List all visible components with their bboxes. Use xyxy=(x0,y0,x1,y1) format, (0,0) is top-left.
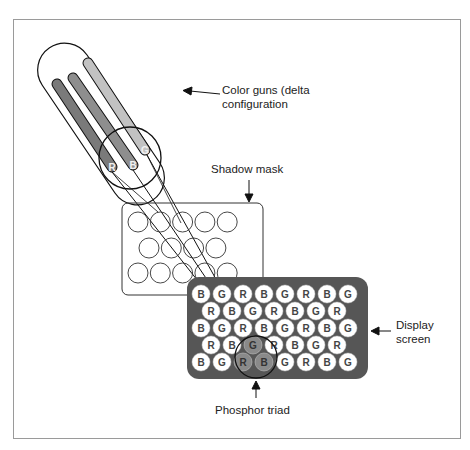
phosphor-dot-g: G xyxy=(276,353,294,371)
label-phosphor-triad: Phosphor triad xyxy=(215,403,290,417)
svg-text:R: R xyxy=(207,340,215,351)
phosphor-dot-r: R xyxy=(202,302,220,320)
gun-label-g: G xyxy=(141,145,149,156)
svg-text:G: G xyxy=(218,289,226,300)
svg-text:R: R xyxy=(239,323,247,334)
mask-hole xyxy=(173,212,193,232)
phosphor-dot-b: B xyxy=(192,319,210,337)
svg-text:G: G xyxy=(344,323,352,334)
phosphor-dot-g: G xyxy=(244,302,262,320)
svg-text:G: G xyxy=(281,289,289,300)
phosphor-dot-r: R xyxy=(328,302,346,320)
svg-text:G: G xyxy=(344,289,352,300)
svg-text:R: R xyxy=(302,323,310,334)
svg-text:R: R xyxy=(302,289,310,300)
svg-text:B: B xyxy=(197,357,204,368)
phosphor-dot-g: G xyxy=(276,319,294,337)
label-display-line2: screen xyxy=(396,332,434,346)
mask-hole xyxy=(217,212,237,232)
svg-text:B: B xyxy=(260,289,267,300)
svg-text:B: B xyxy=(197,323,204,334)
svg-text:B: B xyxy=(228,340,235,351)
label-display-screen: Display screen xyxy=(396,318,434,346)
phosphor-dot-g: G xyxy=(276,285,294,303)
phosphor-dot-g: G xyxy=(339,319,357,337)
svg-text:G: G xyxy=(312,340,320,351)
display-screen: BGRBGRBGRBGRBGRBGRBGRBGRBGRBGRBGRBGRBG xyxy=(187,277,368,379)
phosphor-dot-g: G xyxy=(339,285,357,303)
phosphor-dot-r: R xyxy=(328,336,346,354)
svg-text:B: B xyxy=(323,357,330,368)
phosphor-dot-g: G xyxy=(307,302,325,320)
svg-text:R: R xyxy=(270,340,278,351)
gun-label-b: B xyxy=(129,160,136,171)
arrow-color-guns xyxy=(190,91,220,94)
phosphor-dot-b: B xyxy=(192,353,210,371)
svg-text:G: G xyxy=(218,323,226,334)
phosphor-dot-r: R xyxy=(297,319,315,337)
svg-text:B: B xyxy=(197,289,204,300)
phosphor-dot-r: R xyxy=(234,353,252,371)
svg-text:B: B xyxy=(291,340,298,351)
phosphor-dot-g: G xyxy=(339,353,357,371)
svg-text:G: G xyxy=(312,306,320,317)
phosphor-dot-r: R xyxy=(265,302,283,320)
gun-label-r: R xyxy=(108,162,116,173)
svg-text:G: G xyxy=(249,340,257,351)
svg-text:B: B xyxy=(323,323,330,334)
svg-text:G: G xyxy=(344,357,352,368)
phosphor-dot-b: B xyxy=(255,353,273,371)
svg-text:B: B xyxy=(260,323,267,334)
phosphor-dot-b: B xyxy=(318,353,336,371)
svg-text:R: R xyxy=(302,357,310,368)
phosphor-dot-r: R xyxy=(297,285,315,303)
label-color-guns-line1: Color guns (delta xyxy=(222,83,310,97)
phosphor-dot-r: R xyxy=(297,353,315,371)
phosphor-dot-g: G xyxy=(213,319,231,337)
phosphor-dot-b: B xyxy=(318,285,336,303)
svg-text:R: R xyxy=(239,289,247,300)
svg-text:R: R xyxy=(207,306,215,317)
phosphor-dot-r: R xyxy=(234,319,252,337)
svg-text:G: G xyxy=(218,357,226,368)
mask-hole xyxy=(173,263,193,283)
mask-hole xyxy=(195,212,215,232)
phosphor-dot-b: B xyxy=(223,302,241,320)
svg-text:B: B xyxy=(260,357,267,368)
phosphor-dot-r: R xyxy=(202,336,220,354)
phosphor-dot-b: B xyxy=(255,285,273,303)
label-shadow-mask: Shadow mask xyxy=(211,162,283,176)
svg-text:B: B xyxy=(291,306,298,317)
mask-hole xyxy=(128,263,148,283)
phosphor-dot-b: B xyxy=(286,336,304,354)
phosphor-dot-b: B xyxy=(255,319,273,337)
svg-text:R: R xyxy=(270,306,278,317)
mask-hole xyxy=(139,238,159,258)
svg-text:G: G xyxy=(281,357,289,368)
phosphor-dot-b: B xyxy=(192,285,210,303)
svg-text:B: B xyxy=(323,289,330,300)
svg-text:G: G xyxy=(249,306,257,317)
svg-text:R: R xyxy=(239,357,247,368)
mask-hole xyxy=(150,212,170,232)
svg-text:G: G xyxy=(281,323,289,334)
mask-hole xyxy=(150,263,170,283)
label-display-line1: Display xyxy=(396,318,434,332)
phosphor-dot-b: B xyxy=(286,302,304,320)
phosphor-dot-g: G xyxy=(213,353,231,371)
color-gun-assembly: RBG xyxy=(27,33,175,216)
mask-hole xyxy=(206,238,226,258)
svg-text:R: R xyxy=(333,340,341,351)
crt-diagram: RBG BGRBGRBGRBGRBGRBGRBGRBGRBGRBGRBGRBGR… xyxy=(0,0,470,450)
phosphor-dot-g: G xyxy=(213,285,231,303)
label-color-guns-line2: configuration xyxy=(222,97,310,111)
mask-hole xyxy=(128,212,148,232)
mask-hole xyxy=(184,238,204,258)
label-color-guns: Color guns (delta configuration xyxy=(222,83,310,111)
svg-text:R: R xyxy=(333,306,341,317)
phosphor-dot-g: G xyxy=(307,336,325,354)
phosphor-dot-r: R xyxy=(234,285,252,303)
svg-text:B: B xyxy=(228,306,235,317)
phosphor-dot-b: B xyxy=(318,319,336,337)
